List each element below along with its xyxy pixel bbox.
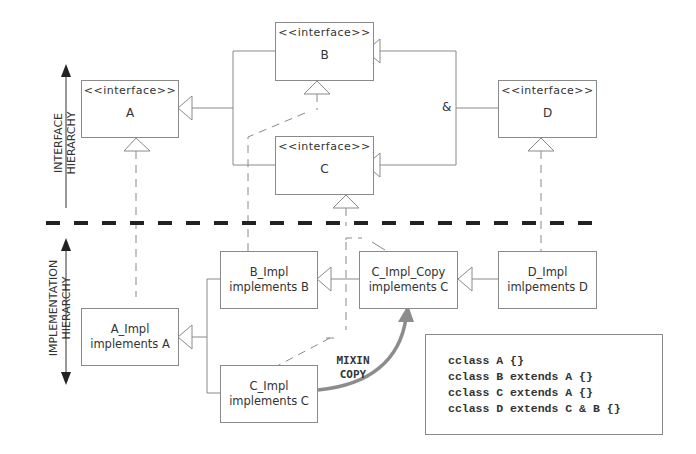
label-line: INTERFACE [52,78,65,208]
stereotype: <<interface>> [276,140,373,153]
impl-c[interactable]: C_Impl implements C [220,365,318,423]
interface-a[interactable]: <<interface>> A [81,80,179,138]
impl-desc: imlpements D [499,280,596,295]
code-listing: cclass A {} cclass B extends A {} cclass… [425,334,663,435]
arrowhead-a [178,96,192,120]
code-line: cclass D extends C & B {} [448,401,662,417]
label-line: IMPLEMENTATION [47,243,60,373]
stereotype: <<interface>> [82,84,178,97]
label-line: MIXIN [328,354,378,368]
mixin-copy-label: MIXIN COPY [328,354,378,382]
impl-desc: implements B [221,280,317,295]
impl-a[interactable]: A_Impl implements A [81,308,179,366]
interface-c[interactable]: <<interface>> C [275,136,374,195]
impl-name: B_Impl [221,265,317,280]
interface-name: A [82,106,178,120]
arrow-down-icon [61,372,71,385]
interface-d[interactable]: <<interface>> D [498,80,597,138]
impl-name: D_Impl [499,265,596,280]
impl-desc: implements C [221,394,317,409]
interface-name: B [276,48,373,62]
implementation-hierarchy-label: IMPLEMENTATION HIERARCHY [47,243,73,373]
impl-d[interactable]: D_Impl imlpements D [498,251,597,309]
impl-desc: implements A [82,337,178,352]
stereotype: <<interface>> [499,84,596,97]
label-line: HIERARCHY [60,243,73,373]
impl-name: C_Impl [221,379,317,394]
arrow-up-icon [61,64,71,77]
interface-name: D [499,106,596,120]
interface-b[interactable]: <<interface>> B [275,22,374,81]
ampersand-label: & [442,100,451,114]
impl-c-copy[interactable]: C_Impl_Copy implements C [359,251,458,309]
impl-name: C_Impl_Copy [360,265,457,280]
edge-c-to-a [233,51,275,165]
impl-desc: implements C [360,280,457,295]
label-line: HIERARCHY [65,78,78,208]
code-line: cclass B extends A {} [448,369,662,385]
impl-name: A_Impl [82,322,178,337]
code-line: cclass C extends A {} [448,385,662,401]
interface-hierarchy-label: INTERFACE HIERARCHY [52,78,78,208]
label-line: COPY [328,368,378,382]
code-line: cclass A {} [448,353,662,369]
stereotype: <<interface>> [276,26,373,39]
interface-name: C [276,162,373,176]
impl-b[interactable]: B_Impl implements B [220,251,318,309]
